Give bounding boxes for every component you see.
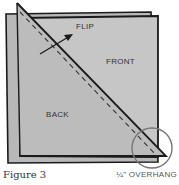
overhang-note: ¼" OVERHANG [116, 170, 177, 179]
figure-caption: Figure 3 [3, 169, 46, 180]
front-label: FRONT [106, 57, 135, 66]
back-label: BACK [46, 110, 69, 119]
flip-label: FLIP [76, 22, 94, 31]
